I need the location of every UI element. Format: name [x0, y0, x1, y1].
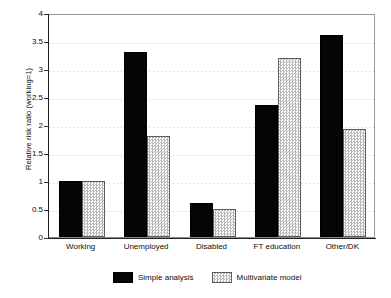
bar-working-multivariate-model: [82, 181, 105, 237]
bar-ft-education-multivariate-model: [278, 58, 301, 237]
y-axis-tick-label: 0.5: [14, 205, 43, 214]
bar-disabled-multivariate-model: [213, 209, 236, 237]
x-axis-tick-label-other-dk: Other/DK: [292, 242, 391, 252]
y-axis-tick-label: 1.5: [14, 149, 43, 158]
bar-working-simple-analysis: [59, 181, 82, 237]
y-axis-tick-label: 3: [14, 65, 43, 74]
y-axis-line: [48, 14, 49, 239]
x-axis-line: [48, 238, 376, 239]
legend-swatch-icon: [113, 272, 133, 283]
chart-legend: Simple analysisMultivariate model: [113, 271, 302, 284]
legend-label: Multivariate model: [237, 273, 302, 283]
legend-entry-simple-analysis[interactable]: Simple analysis: [113, 272, 194, 283]
y-axis-tick-label: 2: [14, 121, 43, 130]
y-axis-tick-label: 4: [14, 9, 43, 18]
bar-ft-education-simple-analysis: [255, 105, 278, 237]
plot-area: [48, 14, 375, 238]
y-axis-title: Relative risk ratio (working=1): [22, 0, 36, 238]
legend-entry-multivariate-model[interactable]: Multivariate model: [212, 272, 302, 283]
y-axis-tick-label: 0: [14, 233, 43, 242]
bar-other-dk-simple-analysis: [320, 35, 343, 237]
bar-other-dk-multivariate-model: [343, 129, 366, 237]
y-axis-tick-label: 1: [14, 177, 43, 186]
legend-swatch-icon: [212, 272, 232, 283]
bar-unemployed-multivariate-model: [147, 136, 170, 237]
y-axis-tick-label: 3.5: [14, 37, 43, 46]
bar-chart-figure: Relative risk ratio (working=1) 00.511.5…: [0, 0, 391, 298]
bar-disabled-simple-analysis: [190, 203, 213, 237]
bar-unemployed-simple-analysis: [124, 52, 147, 237]
legend-label: Simple analysis: [138, 273, 194, 283]
y-axis-tick-label: 2.5: [14, 93, 43, 102]
